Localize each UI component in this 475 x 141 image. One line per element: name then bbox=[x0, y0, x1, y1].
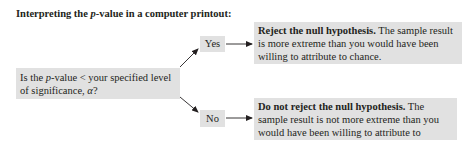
do-not-reject-outcome-box: Do not reject the null hypothesis. The s… bbox=[254, 98, 457, 140]
arrow-to-no bbox=[180, 97, 198, 112]
question-text-3: ? bbox=[93, 85, 98, 96]
reject-outcome-box: Reject the null hypothesis. The sample r… bbox=[254, 22, 462, 64]
question-box: Is the p-value < your specified level of… bbox=[16, 68, 180, 99]
diagram-title: Interpreting the p-value in a computer p… bbox=[16, 8, 231, 19]
question-text-1: Is the bbox=[20, 72, 46, 83]
do-not-reject-heading: Do not reject the null hypothesis. bbox=[258, 101, 405, 112]
yes-label: Yes bbox=[205, 38, 220, 49]
title-prefix: Interpreting the bbox=[16, 8, 90, 19]
title-suffix: -value in a computer printout: bbox=[96, 8, 232, 19]
yes-box: Yes bbox=[200, 36, 225, 52]
no-label: No bbox=[206, 113, 219, 124]
arrow-to-yes bbox=[180, 49, 198, 67]
no-box: No bbox=[200, 110, 225, 127]
reject-heading: Reject the null hypothesis. bbox=[258, 25, 376, 36]
